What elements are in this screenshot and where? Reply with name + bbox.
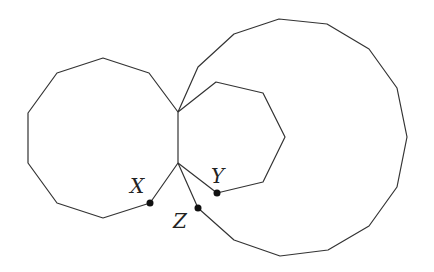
point-x [147,200,154,207]
geometry-diagram: X Y Z [0,0,434,272]
label-z: Z [172,209,188,233]
middle-heptagon [178,82,285,193]
point-y [214,190,221,197]
label-y: Y [211,164,226,188]
label-x: X [128,174,145,198]
large-polygon [178,19,407,256]
point-z [195,205,202,212]
left-decagon [28,58,178,218]
